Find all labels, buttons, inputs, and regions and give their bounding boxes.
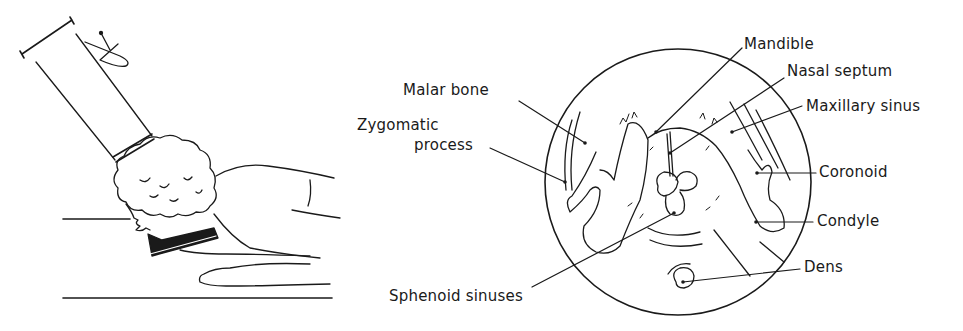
label-condyle: Condyle	[817, 213, 879, 230]
label-sphenoid-sinuses: Sphenoid sinuses	[389, 288, 523, 305]
label-mandible: Mandible	[744, 36, 814, 53]
label-coronoid: Coronoid	[819, 164, 888, 181]
label-zygomatic-line1: Zygomatic	[357, 117, 439, 134]
label-zygomatic-line2: process	[414, 137, 473, 154]
label-malar-bone: Malar bone	[403, 82, 489, 99]
label-maxillary-sinus: Maxillary sinus	[806, 98, 920, 115]
label-nasal-septum: Nasal septum	[787, 63, 892, 80]
patient-positioning-illustration	[20, 17, 340, 298]
label-dens: Dens	[804, 259, 843, 276]
radiograph-circle	[545, 49, 811, 315]
